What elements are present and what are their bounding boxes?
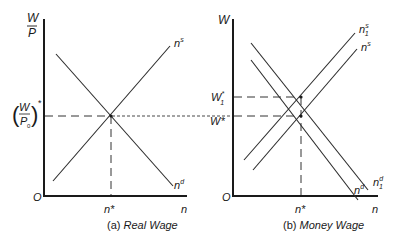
w-star-label: W*: [210, 115, 225, 127]
origin-label-b: O: [222, 191, 231, 203]
origin-label-a: O: [33, 191, 42, 203]
w1-star-label: W*1: [211, 90, 224, 106]
labor-market-diagram: W P ( W P 0 ) * ns nd O n* n (a) Real Wa…: [0, 0, 398, 239]
x-axis-label-a: n: [181, 203, 187, 215]
new-equilibrium-point: [299, 95, 302, 98]
caption-b: (b) Money Wage: [283, 219, 364, 231]
equilibrium-point-b: [299, 114, 302, 117]
caption-a: (a) Real Wage: [107, 219, 178, 231]
y-axis-label-p: P: [28, 26, 36, 40]
labor-supply-curve-b: [253, 49, 357, 170]
supply-label-a: ns: [174, 36, 184, 49]
panel-money-wage: W W*1 W* ns1 ns nd1 nd O n* n (b) Money …: [210, 13, 384, 231]
y-axis-label-b: W: [218, 13, 231, 27]
equilibrium-real-wage-label: ( W P 0 ) *: [12, 98, 42, 129]
panel-real-wage: W P ( W P 0 ) * ns nd O n* n (a) Real Wa…: [12, 11, 187, 231]
x-axis-label-b: n: [372, 203, 378, 215]
y-axis-label-w: W: [27, 11, 40, 25]
supply-label-b: ns: [361, 40, 371, 53]
svg-text:W: W: [19, 101, 31, 113]
svg-text:*: *: [38, 98, 42, 108]
demand-shifted-label: nd1: [373, 175, 384, 190]
n-star-label-a: n*: [104, 203, 115, 215]
demand-label-a: nd: [174, 178, 185, 191]
n-star-label-b: n*: [295, 203, 306, 215]
labor-demand-curve-shifted: [251, 43, 368, 190]
supply-shifted-label: ns1: [359, 22, 369, 37]
labor-demand-curve-b: [251, 60, 358, 200]
labor-demand-curve-a: [56, 54, 173, 186]
demand-label-b: nd: [354, 183, 365, 196]
